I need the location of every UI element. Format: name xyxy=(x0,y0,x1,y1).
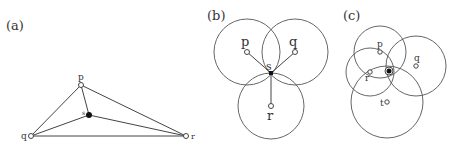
label-p: p xyxy=(78,72,84,82)
panel-a-label: (a) xyxy=(6,18,24,33)
point-r xyxy=(184,134,189,139)
label-q: q xyxy=(289,34,297,49)
panel-a: (a) p q r s xyxy=(6,18,195,141)
label-q: q xyxy=(21,131,27,141)
label-p: p xyxy=(241,34,249,49)
point-t xyxy=(385,100,389,104)
label-p: p xyxy=(377,39,383,49)
panel-c-label: (c) xyxy=(343,8,360,23)
point-p xyxy=(378,50,382,54)
edge-rs xyxy=(89,115,186,136)
point-s xyxy=(387,69,392,74)
point-q xyxy=(293,50,298,55)
label-r: r xyxy=(365,73,370,83)
label-r: r xyxy=(191,132,195,141)
point-q xyxy=(29,134,34,139)
label-t: t xyxy=(380,98,384,108)
edge-qs xyxy=(31,115,89,136)
label-r: r xyxy=(267,108,274,123)
point-s xyxy=(86,112,92,118)
diagram-canvas: (a) p q r s (b) p q r s (c) xyxy=(0,0,467,150)
label-s: s xyxy=(82,109,85,116)
point-p xyxy=(245,50,250,55)
edge-pr xyxy=(81,85,186,136)
point-q xyxy=(414,64,418,68)
point-p xyxy=(79,83,84,88)
label-s: s xyxy=(266,60,272,73)
edge-pq xyxy=(31,85,81,136)
panel-c: (c) p q r t xyxy=(343,8,446,138)
panel-b-label: (b) xyxy=(207,8,225,23)
edge-qs xyxy=(271,52,295,73)
label-q: q xyxy=(414,53,420,63)
panel-b: (b) p q r s xyxy=(207,8,328,139)
